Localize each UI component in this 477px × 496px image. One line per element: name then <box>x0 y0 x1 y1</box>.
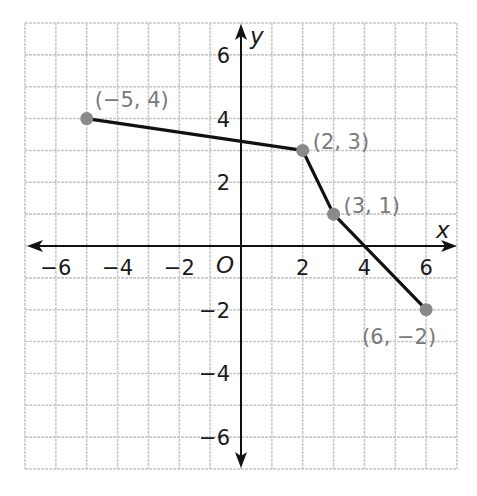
coordinate-plane: −6−4−2246642−2−4−6 x y O (−5, 4)(2, 3)(3… <box>0 0 477 496</box>
point-label: (2, 3) <box>313 130 369 154</box>
x-tick-label: 6 <box>419 256 432 280</box>
x-tick-label: −6 <box>40 256 71 280</box>
y-axis-label: y <box>249 23 264 49</box>
origin-label: O <box>216 252 234 278</box>
point-label: (6, −2) <box>362 325 436 349</box>
y-tick-label: −6 <box>199 426 230 450</box>
y-tick-label: −2 <box>199 299 230 323</box>
axes <box>27 24 457 468</box>
y-tick-label: 4 <box>217 108 230 132</box>
data-point <box>420 303 433 316</box>
x-tick-label: 2 <box>296 256 309 280</box>
x-tick-label: −4 <box>102 256 133 280</box>
point-label: (−5, 4) <box>95 88 169 112</box>
x-axis-label: x <box>435 217 450 243</box>
data-point <box>327 208 340 221</box>
x-tick-label: 4 <box>358 256 371 280</box>
y-tick-label: −4 <box>199 362 230 386</box>
data-point <box>296 144 309 157</box>
data-point <box>80 112 93 125</box>
y-tick-label: 2 <box>217 171 230 195</box>
point-label: (3, 1) <box>344 194 400 218</box>
y-tick-label: 6 <box>217 44 230 68</box>
x-tick-label: −2 <box>164 256 195 280</box>
